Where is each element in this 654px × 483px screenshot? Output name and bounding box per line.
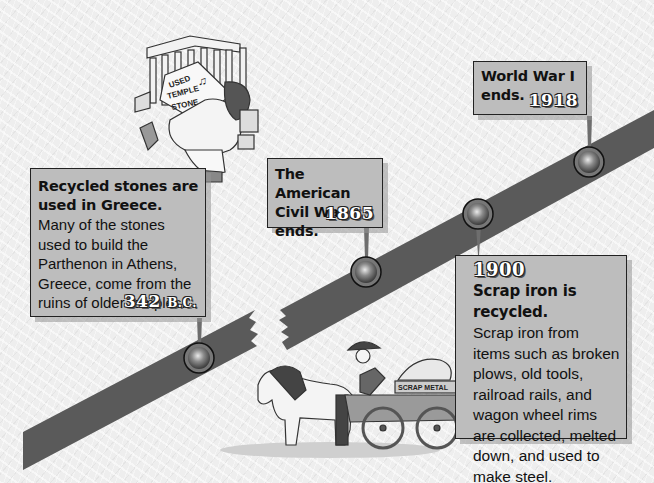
event-headline: Scrap iron is recycled.: [473, 281, 620, 323]
event-year: 1918: [529, 90, 578, 110]
greek-temple-illustration: USED TEMPLE STONE ♫: [135, 36, 258, 182]
svg-text:♫: ♫: [198, 74, 207, 88]
event-card-1918: World War I ends. 1918: [473, 61, 587, 115]
event-year: 1865: [325, 203, 374, 223]
event-card-1900: 1900 Scrap iron is recycled. Scrap iron …: [455, 255, 627, 439]
event-date: 342 B.C.: [124, 291, 197, 311]
event-description: Scrap iron from items such as broken plo…: [473, 323, 620, 483]
event-card-1865: The American Civil War ends. 1865: [267, 158, 383, 228]
svg-text:SCRAP METAL: SCRAP METAL: [398, 384, 449, 391]
event-year: 1900: [473, 259, 620, 281]
horse-wagon-illustration: SCRAP METAL: [220, 342, 460, 458]
event-headline: Recycled stones are used in Greece.: [38, 178, 198, 213]
event-card-342bc: Recycled stones are used in Greece. Many…: [30, 168, 206, 317]
event-year: 342: [124, 291, 161, 311]
timeline-band-lower: [23, 310, 258, 470]
event-era: B.C.: [167, 296, 197, 310]
